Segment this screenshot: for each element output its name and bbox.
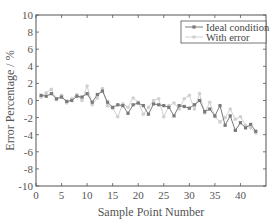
data-point-ideal (111, 106, 114, 109)
data-point-ideal (172, 114, 175, 117)
y-tick-label: -2 (24, 112, 33, 124)
x-tick-label: 10 (82, 189, 94, 201)
legend-label-with-error: With error (206, 32, 250, 43)
data-point-ideal (75, 95, 78, 98)
data-point-with-error (116, 115, 120, 119)
data-point-with-error (152, 99, 156, 103)
data-point-ideal (249, 123, 252, 126)
chart: 0510152025303540 -10-8-6-4-20246810 Samp… (0, 0, 275, 224)
y-tick-label: -4 (24, 129, 34, 141)
data-point-ideal (65, 100, 68, 103)
y-tick-label: -6 (24, 146, 34, 158)
series-layer (39, 84, 257, 135)
data-point-with-error (193, 107, 197, 111)
data-point-ideal (137, 101, 140, 104)
data-point-with-error (182, 97, 186, 101)
data-point-ideal (60, 95, 63, 98)
data-point-with-error (147, 106, 151, 110)
data-point-ideal (224, 124, 227, 127)
data-point-ideal (167, 106, 170, 109)
data-point-ideal (101, 89, 104, 92)
data-point-ideal (203, 110, 206, 113)
data-point-with-error (106, 104, 110, 108)
data-point-with-error (126, 106, 130, 110)
data-point-ideal (55, 97, 58, 100)
data-point-with-error (239, 115, 243, 119)
data-point-ideal (106, 101, 109, 104)
data-point-with-error (198, 92, 202, 96)
y-tick-label: 2 (28, 77, 34, 89)
data-point-ideal (183, 105, 186, 108)
data-point-with-error (162, 115, 166, 119)
data-point-ideal (178, 104, 181, 107)
data-point-ideal (121, 104, 124, 107)
data-point-with-error (218, 120, 222, 124)
data-point-ideal (80, 95, 83, 98)
data-point-with-error (234, 118, 238, 122)
data-point-ideal (91, 101, 94, 104)
data-point-ideal (70, 99, 73, 102)
data-point-ideal (193, 103, 196, 106)
x-tick-label: 40 (235, 189, 247, 201)
x-tick-label: 5 (59, 189, 65, 201)
data-point-ideal (132, 103, 135, 106)
data-point-ideal (244, 126, 247, 129)
data-point-ideal (229, 114, 232, 117)
x-tick-label: 20 (133, 189, 145, 201)
y-tick-label: 8 (28, 26, 34, 38)
data-point-with-error (142, 112, 146, 116)
x-axis-label: Sample Point Number (98, 205, 205, 219)
data-point-ideal (208, 107, 211, 110)
data-point-with-error (44, 91, 48, 95)
data-point-ideal (188, 107, 191, 110)
legend-marker-with-error (192, 35, 196, 39)
data-point-ideal (198, 99, 201, 102)
data-point-ideal (142, 104, 145, 107)
data-point-with-error (228, 107, 232, 111)
data-point-with-error (50, 88, 54, 92)
data-point-ideal (213, 114, 216, 117)
y-tick-label: 6 (28, 43, 34, 55)
data-point-ideal (40, 94, 43, 97)
chart-svg: 0510152025303540 -10-8-6-4-20246810 Samp… (0, 0, 275, 224)
data-point-ideal (218, 104, 221, 107)
y-axis-label: Error Percentage / % (3, 50, 17, 150)
data-point-ideal (147, 113, 150, 116)
y-tick-label: 4 (28, 60, 34, 72)
data-point-ideal (126, 112, 129, 115)
data-point-ideal (96, 93, 99, 96)
x-tick-label: 35 (209, 189, 221, 201)
data-point-ideal (116, 103, 119, 106)
y-tick-label: 10 (22, 9, 34, 21)
x-tick-label: 25 (158, 189, 170, 201)
legend-marker-ideal (192, 25, 195, 28)
data-point-ideal (152, 102, 155, 105)
y-tick-label: -10 (18, 180, 33, 192)
data-point-ideal (50, 92, 53, 95)
data-point-with-error (188, 94, 192, 98)
x-tick-label: 0 (33, 189, 39, 201)
data-point-ideal (234, 129, 237, 132)
x-tick-label: 15 (107, 189, 119, 201)
data-point-ideal (86, 92, 89, 95)
data-point-with-error (208, 100, 212, 104)
y-tick-label: 0 (28, 95, 34, 107)
y-tick-label: -8 (24, 163, 34, 175)
data-point-ideal (157, 103, 160, 106)
x-tick-label: 30 (184, 189, 196, 201)
data-point-with-error (80, 99, 84, 103)
data-point-ideal (239, 121, 242, 124)
data-point-ideal (162, 104, 165, 107)
data-point-ideal (45, 95, 48, 98)
data-point-with-error (85, 84, 89, 88)
data-point-with-error (172, 101, 176, 105)
data-point-with-error (157, 97, 161, 101)
legend: Ideal condition With error (181, 21, 270, 43)
data-point-with-error (131, 96, 135, 100)
data-point-ideal (254, 130, 257, 133)
